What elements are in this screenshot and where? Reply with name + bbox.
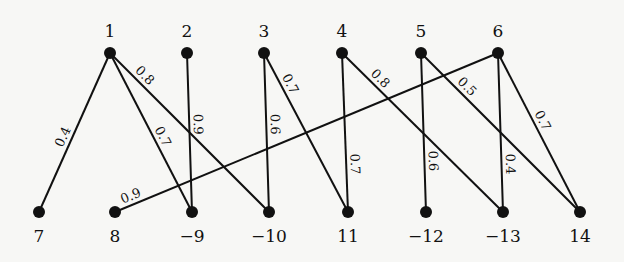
edge-weight-label: 0.6 <box>267 114 283 135</box>
edge-weight-label: 0.9 <box>118 185 143 207</box>
bipartite-graph-diagram: 0.40.70.80.90.60.70.70.80.60.50.90.40.7 … <box>0 0 624 262</box>
node-6 <box>492 47 504 59</box>
node-label: 3 <box>259 21 270 41</box>
edge-weight-label: 0.7 <box>531 108 554 133</box>
node--9 <box>186 206 198 218</box>
node--10 <box>263 206 275 218</box>
node-label: 7 <box>34 226 45 246</box>
edge-weight-label: 0.7 <box>279 71 302 96</box>
edge-weight-label: 0.8 <box>132 63 157 88</box>
edge-6-to--13 <box>498 53 503 212</box>
edge-weight-label: 0.4 <box>52 124 74 149</box>
node-label: 1 <box>105 21 116 41</box>
node-5 <box>415 47 427 59</box>
edge-6-to-14 <box>498 53 580 212</box>
node-7 <box>33 206 45 218</box>
edges-layer <box>39 53 580 212</box>
edge-1-to-7 <box>39 53 110 212</box>
edge-6-to-8 <box>115 53 498 212</box>
edge-weight-label: 0.8 <box>368 66 393 91</box>
nodes-layer: 12345678−9−1011−12−1314 <box>33 21 591 246</box>
node-1 <box>104 47 116 59</box>
node-label: −9 <box>179 226 204 246</box>
node-label: 4 <box>337 21 348 41</box>
node-8 <box>109 206 121 218</box>
node-2 <box>181 47 193 59</box>
node--13 <box>497 206 509 218</box>
node-label: 6 <box>493 21 504 41</box>
edge-weight-label: 0.7 <box>347 153 363 174</box>
graph-svg: 0.40.70.80.90.60.70.70.80.60.50.90.40.7 … <box>0 0 624 262</box>
node-3 <box>258 47 270 59</box>
edge-weight-label: 0.4 <box>503 153 519 174</box>
edge-weight-label: 0.9 <box>190 114 206 135</box>
edge-weight-label: 0.7 <box>152 124 175 149</box>
edge-weight-label: 0.5 <box>454 74 479 99</box>
edge-weight-label: 0.6 <box>426 150 442 171</box>
node-label: −10 <box>251 226 287 246</box>
edge-4-to-11 <box>342 53 348 212</box>
node-label: 8 <box>110 226 121 246</box>
node-label: 14 <box>569 226 591 246</box>
node-4 <box>336 47 348 59</box>
node-label: 2 <box>182 21 193 41</box>
node-label: −13 <box>485 226 521 246</box>
node--12 <box>420 206 432 218</box>
node-14 <box>574 206 586 218</box>
node-label: 5 <box>416 21 427 41</box>
node-label: −12 <box>408 226 444 246</box>
node-label: 11 <box>337 226 359 246</box>
node-11 <box>342 206 354 218</box>
